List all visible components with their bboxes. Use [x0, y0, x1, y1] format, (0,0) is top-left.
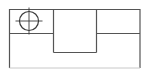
- technical-drawing-svg: [0, 0, 151, 78]
- drawing-canvas: [0, 0, 151, 78]
